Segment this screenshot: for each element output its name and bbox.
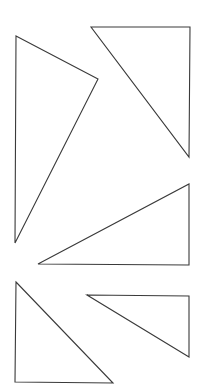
triangle-4 bbox=[15, 282, 113, 383]
triangle-5 bbox=[87, 295, 189, 357]
triangle-3 bbox=[38, 184, 189, 265]
triangle-2 bbox=[91, 27, 190, 157]
triangle-1 bbox=[15, 36, 98, 243]
triangle-diagram bbox=[0, 0, 202, 388]
